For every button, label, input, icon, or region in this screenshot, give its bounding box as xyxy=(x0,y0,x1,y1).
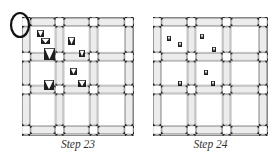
flying-geese-marker xyxy=(211,81,215,86)
flying-geese-marker xyxy=(41,38,50,44)
flying-geese-marker xyxy=(178,81,182,86)
flying-geese-marker xyxy=(78,80,86,87)
flying-geese-marker xyxy=(200,34,204,39)
flying-geese-marker xyxy=(37,30,44,37)
caption-step23: Step 23 xyxy=(22,138,134,150)
quilt-panel-step24 xyxy=(153,17,268,136)
quilt-diagram-step23 xyxy=(22,17,134,136)
quilt-diagram-step24 xyxy=(153,17,268,136)
flying-geese-marker xyxy=(44,80,54,90)
flying-geese-marker xyxy=(79,50,85,57)
flying-geese-marker xyxy=(70,68,77,75)
flying-geese-marker xyxy=(167,36,171,41)
flying-geese-marker xyxy=(68,37,75,45)
quilt-panel-step23 xyxy=(22,17,134,136)
caption-step24: Step 24 xyxy=(153,138,268,150)
flying-geese-marker xyxy=(212,47,216,52)
flying-geese-marker xyxy=(178,42,182,47)
flying-geese-marker xyxy=(204,70,208,75)
flying-geese-marker xyxy=(44,48,55,60)
